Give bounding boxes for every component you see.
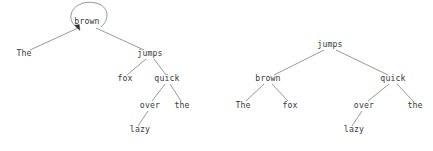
left-tree: brown The jumps fox quick over the lazy <box>16 2 189 134</box>
node-l-quick[interactable]: quick <box>154 73 179 83</box>
node-l-over[interactable]: over <box>140 100 160 110</box>
trees-diagram: brown The jumps fox quick over the lazy <box>0 0 433 151</box>
edge-brown-jumps <box>96 28 144 50</box>
edge-r-quick-the2 <box>397 84 413 101</box>
node-l-jumps[interactable]: jumps <box>137 48 162 58</box>
edge-quick-the2 <box>170 84 181 101</box>
figure-canvas: brown The jumps fox quick over the lazy <box>0 0 433 151</box>
node-r-the2[interactable]: the <box>407 100 422 110</box>
node-l-lazy[interactable]: lazy <box>130 124 150 134</box>
node-r-quick[interactable]: quick <box>380 73 405 83</box>
edge-r-quick-over <box>368 84 389 101</box>
edge-r-jumps-brown <box>274 50 324 75</box>
node-r-fox[interactable]: fox <box>282 100 297 110</box>
right-tree-edges <box>246 50 413 126</box>
node-l-the2[interactable]: the <box>174 100 189 110</box>
left-tree-nodes: brown The jumps fox quick over the lazy <box>16 16 189 134</box>
node-r-lazy[interactable]: lazy <box>344 124 364 134</box>
node-r-the[interactable]: The <box>235 100 250 110</box>
node-r-over[interactable]: over <box>354 100 374 110</box>
edge-brown-the <box>30 28 78 50</box>
node-l-the[interactable]: The <box>16 48 31 58</box>
node-r-jumps[interactable]: jumps <box>317 39 342 49</box>
right-tree: jumps brown quick The fox over the lazy <box>235 39 422 134</box>
edge-quick-over <box>152 84 165 101</box>
node-l-brown[interactable]: brown <box>74 16 99 26</box>
node-r-brown[interactable]: brown <box>255 73 280 83</box>
edge-r-jumps-quick <box>336 50 388 75</box>
right-tree-nodes: jumps brown quick The fox over the lazy <box>235 39 422 134</box>
edge-r-brown-the <box>246 84 264 101</box>
edge-r-brown-fox <box>272 84 288 101</box>
node-l-fox[interactable]: fox <box>117 73 132 83</box>
